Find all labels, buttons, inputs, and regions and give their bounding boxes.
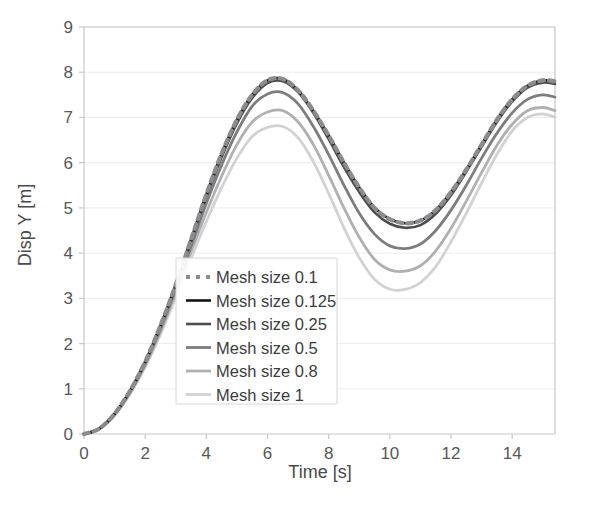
y-axis-title: Disp Y [m] bbox=[15, 184, 35, 266]
y-tick-label: 1 bbox=[64, 380, 73, 399]
legend-label: Mesh size 0.8 bbox=[216, 362, 318, 380]
legend-label: Mesh size 0.1 bbox=[216, 268, 318, 286]
y-tick-label: 5 bbox=[64, 199, 73, 218]
y-tick-label: 9 bbox=[64, 18, 73, 37]
x-tick-label: 4 bbox=[202, 444, 211, 463]
legend-label: Mesh size 1 bbox=[216, 386, 304, 404]
y-tick-label: 3 bbox=[64, 289, 73, 308]
y-tick-label: 7 bbox=[64, 108, 73, 127]
y-tick-label: 8 bbox=[64, 63, 73, 82]
x-tick-label: 2 bbox=[140, 444, 149, 463]
legend: Mesh size 0.1Mesh size 0.125Mesh size 0.… bbox=[176, 258, 337, 404]
x-tick-label: 14 bbox=[503, 444, 522, 463]
x-axis-title: Time [s] bbox=[288, 462, 351, 482]
x-axis-tick-labels: 02468101214 bbox=[79, 444, 521, 463]
legend-label: Mesh size 0.5 bbox=[216, 339, 318, 357]
y-tick-label: 0 bbox=[64, 425, 73, 444]
x-tick-label: 0 bbox=[79, 444, 88, 463]
legend-label: Mesh size 0.125 bbox=[216, 292, 336, 310]
x-tick-label: 6 bbox=[263, 444, 272, 463]
x-tick-label: 10 bbox=[380, 444, 399, 463]
y-tick-label: 4 bbox=[64, 244, 73, 263]
chart-figure: 02468101214 0123456789 Time [s] Disp Y [… bbox=[0, 0, 611, 508]
y-tick-label: 6 bbox=[64, 154, 73, 173]
y-tick-label: 2 bbox=[64, 335, 73, 354]
legend-label: Mesh size 0.25 bbox=[216, 315, 327, 333]
x-tick-label: 8 bbox=[324, 444, 333, 463]
x-tick-label: 12 bbox=[442, 444, 461, 463]
line-chart: 02468101214 0123456789 Time [s] Disp Y [… bbox=[0, 0, 611, 508]
y-axis-tick-labels: 0123456789 bbox=[64, 18, 73, 444]
